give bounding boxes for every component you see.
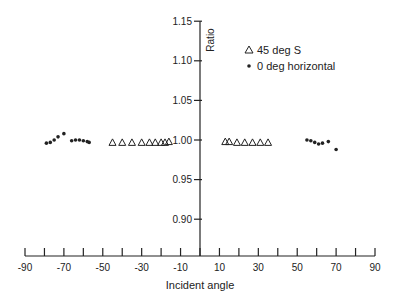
x-tick-label: 70 [331, 262, 343, 273]
legend-label: 45 deg S [257, 44, 301, 56]
triangle-point [109, 139, 116, 146]
x-tick-label: -10 [173, 262, 188, 273]
chart-container: -90-70-50-30-1010305070901.151.101.051.0… [0, 0, 399, 306]
dot-point [327, 140, 331, 144]
legend: 45 deg S 0 deg horizontal [245, 44, 335, 72]
scatter-plot: -90-70-50-30-1010305070901.151.101.051.0… [0, 0, 399, 306]
dot-point [305, 138, 309, 142]
x-tick-label: -50 [96, 262, 111, 273]
legend-item-0-deg-horizontal: 0 deg horizontal [247, 60, 335, 72]
dot-point [56, 135, 60, 139]
dot-point [45, 141, 49, 145]
dot-point [78, 138, 82, 142]
legend-label: 0 deg horizontal [257, 60, 335, 72]
dot-point [74, 138, 78, 142]
dot-point [48, 141, 52, 145]
y-tick-label: 1.10 [173, 55, 193, 66]
dot-point [313, 141, 317, 145]
dot-point [321, 141, 325, 145]
y-tick-label: 0.95 [173, 174, 193, 185]
triangle-point [233, 139, 240, 146]
y-tick-label: 1.00 [173, 135, 193, 146]
triangle-point [128, 139, 135, 146]
dot-point [52, 138, 56, 142]
x-tick-label: -90 [18, 262, 33, 273]
dot-point [70, 139, 74, 143]
dot-point [62, 132, 66, 136]
legend-item-45-deg-s: 45 deg S [245, 44, 301, 56]
triangle-point [119, 139, 126, 146]
y-tick-label: 1.15 [173, 16, 193, 27]
dot-point [82, 139, 86, 143]
dot-marker-icon [247, 64, 251, 68]
triangle-point [265, 139, 272, 146]
x-tick-label: -70 [57, 262, 72, 273]
dot-point [87, 141, 91, 145]
dot-point [334, 148, 338, 152]
axes: -90-70-50-30-1010305070901.151.101.051.0… [18, 16, 381, 273]
triangle-point [241, 139, 248, 146]
x-tick-label: 90 [369, 262, 381, 273]
x-tick-label: 50 [292, 262, 304, 273]
dot-point [309, 139, 313, 143]
y-tick-label: 0.90 [173, 214, 193, 225]
y-axis-label: Ratio [205, 28, 216, 52]
triangle-point [138, 139, 145, 146]
triangle-marker-icon [245, 46, 253, 53]
x-axis-label: Incident angle [166, 279, 235, 291]
dot-point [317, 142, 321, 146]
triangle-point [249, 139, 256, 146]
y-tick-label: 1.05 [173, 95, 193, 106]
x-tick-label: 10 [214, 262, 226, 273]
x-tick-label: -30 [134, 262, 149, 273]
triangle-point [257, 139, 264, 146]
x-tick-label: 30 [253, 262, 265, 273]
